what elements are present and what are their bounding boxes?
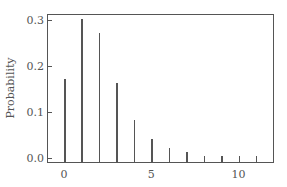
stem-bar	[99, 33, 101, 162]
y-tick-label: 0.1	[27, 106, 45, 119]
y-axis-label: Probability	[4, 57, 17, 118]
x-tick-mark	[169, 157, 171, 162]
x-tick-mark	[151, 157, 153, 162]
y-tick-mark	[47, 20, 52, 21]
x-tick-mark	[116, 157, 118, 162]
x-tick-mark	[99, 157, 101, 162]
stem-bar	[64, 79, 66, 162]
x-tick-mark	[81, 157, 83, 162]
y-tick-mark	[47, 112, 52, 113]
x-tick-mark	[239, 157, 241, 162]
x-tick-label: 0	[61, 168, 68, 181]
plot-area	[47, 14, 274, 163]
x-tick-mark	[186, 157, 188, 162]
x-tick-mark	[256, 157, 258, 162]
x-tick-mark	[134, 157, 136, 162]
y-tick-label: 0.2	[27, 60, 45, 73]
x-tick-mark	[221, 157, 223, 162]
stem-bar	[134, 120, 136, 162]
stem-bar	[81, 19, 83, 162]
x-tick-label: 5	[148, 168, 155, 181]
y-tick-label: 0.3	[27, 14, 45, 27]
x-tick-label: 10	[232, 168, 246, 181]
x-tick-mark	[204, 157, 206, 162]
x-tick-mark	[64, 157, 66, 162]
y-tick-mark	[47, 158, 52, 159]
y-tick-mark	[47, 66, 52, 67]
y-tick-label: 0.0	[27, 152, 45, 165]
stem-bar	[116, 83, 118, 162]
